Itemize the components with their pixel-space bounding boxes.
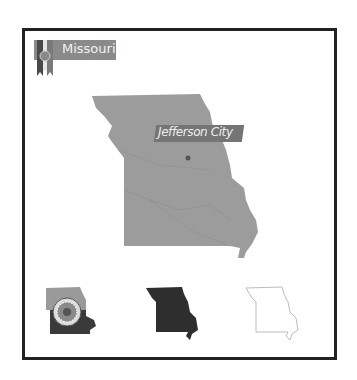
capital-dot-icon xyxy=(186,156,191,161)
capital-label: Jefferson City xyxy=(158,125,233,139)
silhouette-map xyxy=(146,286,212,342)
flag-map xyxy=(46,286,112,342)
outline-map xyxy=(246,286,312,342)
